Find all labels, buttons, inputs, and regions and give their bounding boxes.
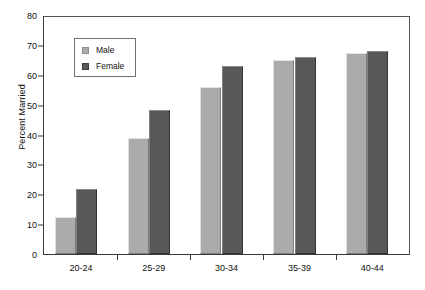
- y-tick-label: 30: [0, 160, 43, 170]
- y-tick-label: 60: [0, 71, 43, 81]
- y-tick-mark: [38, 165, 43, 166]
- y-tick-mark: [38, 75, 43, 76]
- y-tick-mark: [38, 195, 43, 196]
- bar-male-40-44: [346, 53, 367, 255]
- y-tick-label: 40: [0, 131, 43, 141]
- legend: Male Female: [74, 38, 136, 77]
- bar-female-35-39: [295, 57, 316, 254]
- legend-swatch-male-icon: [82, 47, 89, 54]
- bar-male-30-34: [200, 87, 221, 254]
- y-tick-mark: [38, 105, 43, 106]
- x-tick-mark: [117, 255, 118, 260]
- bar-group: [336, 16, 409, 254]
- bar-female-20-24: [76, 189, 97, 255]
- bar-male-25-29: [128, 138, 149, 255]
- x-tick-mark: [336, 255, 337, 260]
- legend-label-male: Male: [96, 45, 114, 55]
- x-tick-label: 35-39: [288, 263, 311, 273]
- x-tick-label: 25-29: [142, 263, 165, 273]
- bar-female-40-44: [367, 51, 388, 254]
- y-tick-mark: [38, 225, 43, 226]
- y-tick-label: 70: [0, 41, 43, 51]
- bar-chart: Percent Married 01020304050607080 20-242…: [0, 0, 425, 290]
- x-tick-mark: [190, 255, 191, 260]
- x-tick-label: 40-44: [361, 263, 384, 273]
- y-tick-label: 10: [0, 220, 43, 230]
- y-tick-label: 50: [0, 101, 43, 111]
- y-tick-label: 80: [0, 11, 43, 21]
- y-tick-label: 0: [0, 250, 43, 260]
- bar-male-35-39: [273, 60, 294, 254]
- x-tick-label: 20-24: [69, 263, 92, 273]
- bar-female-30-34: [222, 66, 243, 254]
- legend-swatch-female-icon: [82, 63, 89, 70]
- bar-group: [190, 16, 263, 254]
- y-tick-mark: [38, 135, 43, 136]
- y-tick-mark: [38, 45, 43, 46]
- legend-label-female: Female: [96, 61, 124, 71]
- x-tick-mark: [263, 255, 264, 260]
- bar-group: [263, 16, 336, 254]
- y-tick-label: 20: [0, 190, 43, 200]
- legend-item-female: Female: [82, 61, 124, 71]
- legend-item-male: Male: [82, 45, 114, 55]
- x-tick-label: 30-34: [215, 263, 238, 273]
- bar-female-25-29: [149, 110, 170, 255]
- bar-male-20-24: [55, 217, 76, 254]
